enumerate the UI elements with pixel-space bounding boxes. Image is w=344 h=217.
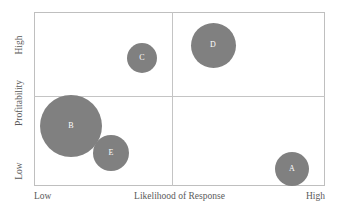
bubble-label: A — [289, 165, 295, 173]
bubble-label: E — [108, 149, 113, 157]
y-axis-title: Profitability — [12, 80, 26, 126]
y-axis-tick-low: Low — [12, 162, 26, 179]
bubble-label: C — [139, 54, 145, 62]
x-axis-labels: Low Likelihood of Response High — [34, 189, 325, 205]
bubble-label: B — [68, 122, 74, 130]
bubble-point[interactable]: E — [93, 135, 129, 171]
y-axis-tick-high: High — [12, 36, 26, 55]
x-axis-tick-low: Low — [34, 189, 51, 203]
bubble-point[interactable]: D — [191, 23, 236, 68]
x-axis-tick-high: High — [306, 189, 325, 203]
bubble-point[interactable]: A — [275, 152, 309, 186]
bubble-label: D — [210, 41, 216, 49]
bubble-chart: A B C D E Low Likelihood of Response Hig… — [0, 0, 344, 217]
y-axis-labels: High Profitability Low — [10, 12, 28, 186]
bubble-layer: A B C D E — [0, 0, 344, 217]
x-axis-title: Likelihood of Response — [134, 189, 225, 203]
bubble-point[interactable]: C — [127, 43, 157, 73]
